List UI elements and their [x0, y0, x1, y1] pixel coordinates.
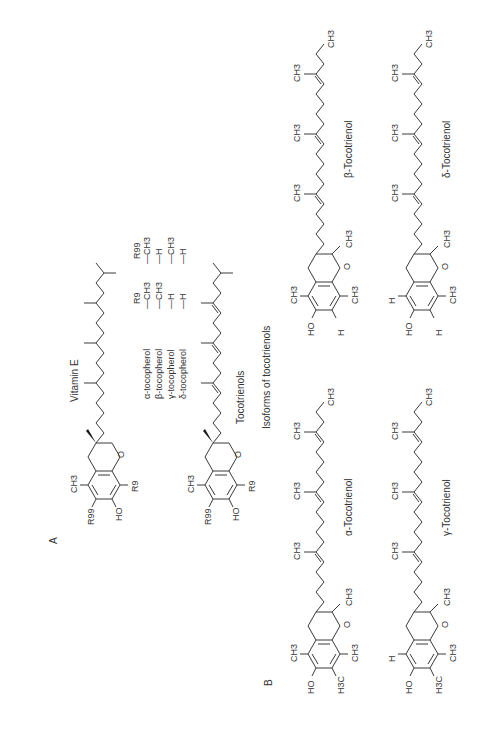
ch3-label: CH3	[344, 230, 354, 248]
r7-label: H3C	[434, 675, 444, 694]
r5-label: H	[387, 656, 397, 663]
bond	[406, 268, 414, 282]
bond	[406, 626, 414, 640]
r8-label: CH3	[448, 644, 458, 662]
bond	[430, 668, 434, 676]
bond	[332, 310, 336, 318]
isoform-name: γ-Tocotrienol	[441, 479, 452, 536]
bond	[308, 612, 316, 626]
table-row: β-tocopherol —CH3 —H	[154, 249, 164, 400]
ch3-label: CH3	[292, 184, 302, 202]
ch3-label: CH3	[442, 230, 452, 248]
bond	[332, 254, 340, 268]
ho-label: HO	[231, 508, 241, 522]
ch3-label: CH3	[390, 64, 400, 82]
table-row: γ-tocopherol —H —CH3	[166, 237, 176, 399]
ch3-label: CH3	[186, 475, 196, 493]
row-r9: —H	[166, 294, 176, 310]
row-r99: —CH3	[142, 237, 152, 264]
ho-label: HO	[404, 323, 414, 337]
ch3-label: CH3	[292, 124, 302, 142]
bond	[430, 626, 438, 640]
tocotrienol-isoforms: OCH3HOH3CCH3CH3CH3CH3CH3CH3α-Tocotrienol…	[289, 30, 458, 694]
tocopherol-table: R9 R99 α-tocopherol —CH3 —CH3 β-tocopher…	[132, 237, 188, 399]
ch3-label: CH3	[390, 422, 400, 440]
side-chain	[414, 412, 422, 612]
panel-b-label: B	[263, 679, 274, 686]
figure-rotated: A Vitamin E O CH3 R99 HO R9 R9 R	[0, 0, 481, 744]
stereo-wedge	[86, 429, 96, 443]
bond	[410, 310, 414, 318]
ho-label: HO	[306, 323, 316, 337]
side-chain	[316, 412, 324, 612]
ring-oxygen: O	[342, 621, 352, 628]
table-row: α-tocopherol —CH3 —CH3	[142, 237, 152, 399]
isoform-structure: OHHOHCH3CH3CH3CH3CH3CH3δ-Tocotrienol	[387, 30, 458, 336]
ch3-label: CH3	[69, 475, 79, 493]
ch3-label: CH3	[390, 124, 400, 142]
r7-label: H	[336, 330, 346, 337]
side-chain	[414, 54, 422, 254]
tocotrienols-title: Tocotrienols	[235, 371, 246, 424]
ch3-label: CH3	[390, 542, 400, 560]
r8-label: CH3	[350, 286, 360, 304]
isoform-name: α-Tocotrienol	[343, 479, 354, 536]
r9-label: R9	[130, 480, 140, 492]
ch3-label: CH3	[390, 482, 400, 500]
row-r9: —CH3	[154, 282, 164, 309]
r99-label: R99	[86, 508, 96, 525]
side-chain	[316, 54, 324, 254]
r99-label: R99	[203, 508, 213, 525]
bond	[430, 310, 434, 318]
r7-label: H	[434, 330, 444, 337]
bond	[308, 268, 316, 282]
isoforms-title: Isoforms of tocotrienols	[261, 326, 272, 429]
row-r99: —H	[178, 249, 188, 265]
bond	[332, 246, 340, 254]
bond	[312, 310, 316, 318]
table-header-r9: R9	[132, 292, 142, 304]
tocotrienol-structure: O CH3 R99 HO R9	[186, 263, 257, 525]
ho-label: HO	[306, 681, 316, 695]
ring-oxygen: O	[342, 263, 352, 270]
bond	[406, 612, 414, 626]
ch3-label: CH3	[442, 588, 452, 606]
bond	[414, 402, 422, 412]
bond	[430, 268, 438, 282]
r5-label: CH3	[289, 644, 299, 662]
bond	[332, 626, 340, 640]
ring-oxygen: O	[233, 451, 243, 458]
bond	[430, 604, 438, 612]
ch3-label: CH3	[292, 422, 302, 440]
ch3-label: CH3	[424, 388, 434, 406]
bond	[312, 668, 316, 676]
bond	[316, 402, 324, 412]
stereo-wedge	[203, 429, 213, 443]
ch3-label: CH3	[424, 30, 434, 48]
bond	[406, 254, 414, 268]
bond	[332, 668, 336, 676]
row-r99: —H	[154, 249, 164, 265]
r7-label: H3C	[336, 675, 346, 694]
isoform-structure: OCH3HOH3CCH3CH3CH3CH3CH3CH3α-Tocotrienol	[289, 388, 360, 694]
row-r9: —CH3	[142, 282, 152, 309]
ch3-label: CH3	[344, 588, 354, 606]
ch3-label: CH3	[326, 388, 336, 406]
vitamin-e-title: Vitamin E	[69, 359, 80, 402]
vitamin-e-figure: A Vitamin E O CH3 R99 HO R9 R9 R	[0, 0, 481, 744]
isoform-structure: OHHOH3CCH3CH3CH3CH3CH3CH3γ-Tocotrienol	[387, 388, 458, 694]
bond	[332, 604, 340, 612]
ring-oxygen: O	[116, 451, 126, 458]
r5-label: H	[387, 298, 397, 305]
row-name: β-tocopherol	[154, 349, 164, 399]
ch3-label: CH3	[390, 184, 400, 202]
bond	[332, 268, 340, 282]
ch3-label: CH3	[326, 30, 336, 48]
isoform-structure: OCH3HOHCH3CH3CH3CH3CH3CH3β-Tocotrienol	[289, 30, 360, 336]
ch3-label: CH3	[292, 542, 302, 560]
ho-label: HO	[404, 681, 414, 695]
r9-label: R9	[247, 480, 257, 492]
bond	[308, 626, 316, 640]
r8-label: CH3	[448, 286, 458, 304]
row-name: γ-tocopherol	[166, 349, 176, 399]
